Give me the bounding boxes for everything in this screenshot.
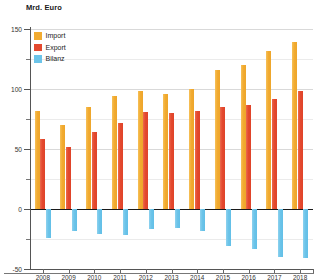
bar-export-2008 <box>40 139 45 209</box>
bars-layer <box>30 29 313 269</box>
x-axis-label: 2011 <box>113 274 127 280</box>
y-tick-minor <box>26 59 30 60</box>
legend-swatch-bilanz <box>34 55 42 63</box>
bar-import-2011 <box>112 96 117 209</box>
bar-import-2018 <box>292 42 297 209</box>
bar-import-2013 <box>163 94 168 209</box>
y-tick-minor <box>26 119 30 120</box>
y-axis-label: 150 <box>0 26 22 33</box>
bar-export-2018 <box>298 91 303 209</box>
bar-bilanz-2008 <box>46 209 51 238</box>
y-tick <box>24 29 30 30</box>
y-tick-minor <box>26 239 30 240</box>
y-tick <box>24 89 30 90</box>
bar-bilanz-2016 <box>252 209 257 249</box>
bar-import-2009 <box>60 125 65 209</box>
bar-import-2014 <box>189 89 194 209</box>
bar-export-2013 <box>169 113 174 209</box>
chart-container: Mrd. Euro -50050100150 20082009201020112… <box>0 0 318 280</box>
y-tick <box>24 149 30 150</box>
chart-axis-unit-title: Mrd. Euro <box>26 3 62 12</box>
bar-import-2010 <box>86 107 91 209</box>
bar-bilanz-2014 <box>200 209 205 231</box>
legend-swatch-export <box>34 44 42 52</box>
bar-bilanz-2015 <box>226 209 231 246</box>
bar-import-2008 <box>35 111 40 209</box>
x-axis-label: 2010 <box>87 274 101 280</box>
legend-label-import: Import <box>46 32 66 39</box>
bar-bilanz-2009 <box>72 209 77 231</box>
bar-import-2012 <box>138 91 143 209</box>
y-axis-line <box>30 27 31 270</box>
bar-import-2016 <box>241 65 246 209</box>
bar-bilanz-2018 <box>303 209 308 258</box>
legend-label-export: Export <box>46 44 66 51</box>
legend-label-bilanz: Bilanz <box>46 55 65 62</box>
x-axis-label: 2018 <box>293 274 307 280</box>
y-tick-minor <box>26 179 30 180</box>
bar-bilanz-2010 <box>97 209 102 234</box>
x-axis-label: 2015 <box>216 274 230 280</box>
x-axis-label: 2014 <box>190 274 204 280</box>
bar-export-2010 <box>92 132 97 209</box>
bar-bilanz-2017 <box>278 209 283 257</box>
bottom-rule <box>4 273 314 274</box>
y-axis-label: 50 <box>0 146 22 153</box>
x-axis-label: 2013 <box>164 274 178 280</box>
bar-export-2011 <box>118 123 123 209</box>
bar-export-2017 <box>272 99 277 209</box>
bar-import-2017 <box>266 51 271 209</box>
bar-export-2014 <box>195 111 200 209</box>
bar-export-2012 <box>143 112 148 209</box>
bar-import-2015 <box>215 70 220 209</box>
bar-bilanz-2011 <box>123 209 128 235</box>
bar-export-2016 <box>246 105 251 209</box>
y-tick <box>24 209 30 210</box>
x-axis-label: 2009 <box>61 274 75 280</box>
y-axis-label: 0 <box>0 206 22 213</box>
x-axis-label: 2016 <box>242 274 256 280</box>
x-axis-label: 2012 <box>139 274 153 280</box>
x-axis-label: 2017 <box>267 274 281 280</box>
y-axis-label: -50 <box>0 266 22 273</box>
y-tick <box>24 269 30 270</box>
bar-bilanz-2012 <box>149 209 154 229</box>
legend-item-export[interactable]: Export <box>34 42 66 54</box>
legend-swatch-import <box>34 32 42 40</box>
legend-item-bilanz[interactable]: Bilanz <box>34 53 66 65</box>
bar-export-2009 <box>66 147 71 209</box>
bar-export-2015 <box>220 107 225 209</box>
x-axis-label: 2008 <box>36 274 50 280</box>
y-axis-label: 100 <box>0 86 22 93</box>
bar-bilanz-2013 <box>175 209 180 228</box>
chart-legend: Import Export Bilanz <box>34 30 66 65</box>
legend-item-import[interactable]: Import <box>34 30 66 42</box>
